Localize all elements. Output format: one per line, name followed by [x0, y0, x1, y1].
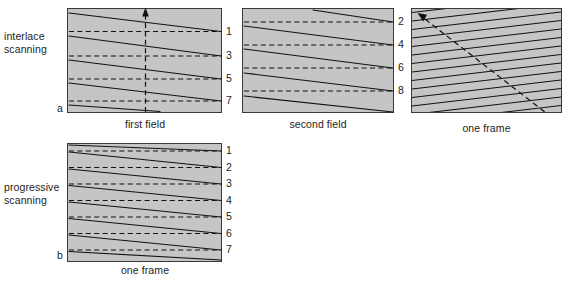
line-number-second-field-2: 2 [398, 16, 404, 27]
figure-interlace-vs-progressive-scanning: interlace scanning progressive scanning … [0, 0, 570, 281]
row-label-interlace-scanning: interlace scanning [4, 30, 47, 56]
line-number-progressive-1: 1 [226, 145, 232, 156]
line-number-progressive-7: 7 [226, 244, 232, 255]
panel-one-frame-progressive [68, 144, 222, 262]
panel-first-field [68, 8, 222, 113]
line-number-first-field-1: 1 [226, 26, 232, 37]
line-number-second-field-4: 4 [398, 39, 404, 50]
line-number-first-field-3: 3 [226, 50, 232, 61]
line-number-second-field-6: 6 [398, 62, 404, 73]
line-number-progressive-2: 2 [226, 162, 232, 173]
caption-one-frame-progressive: one frame [69, 264, 221, 276]
panel-marker-a: a [57, 102, 63, 114]
line-number-progressive-4: 4 [226, 195, 232, 206]
caption-second-field: second field [243, 118, 393, 130]
line-number-progressive-5: 5 [226, 211, 232, 222]
line-number-first-field-5: 5 [226, 73, 232, 84]
row-label-progressive-scanning: progressive scanning [4, 181, 59, 207]
panel-first-field-background [68, 9, 222, 113]
caption-one-frame-interlaced: one frame [412, 122, 561, 134]
panel-second-field-background [243, 9, 394, 113]
line-number-first-field-7: 7 [226, 95, 232, 106]
panel-marker-b: b [57, 249, 63, 261]
caption-first-field: first field [69, 118, 221, 130]
line-number-progressive-3: 3 [226, 178, 232, 189]
scanning-diagram-svg [0, 0, 570, 281]
line-number-second-field-8: 8 [398, 85, 404, 96]
panel-one-frame-interlaced [412, 0, 562, 132]
panel-one-frame-progressive-background [68, 144, 222, 262]
line-number-progressive-6: 6 [226, 228, 232, 239]
panel-second-field [243, 9, 394, 113]
